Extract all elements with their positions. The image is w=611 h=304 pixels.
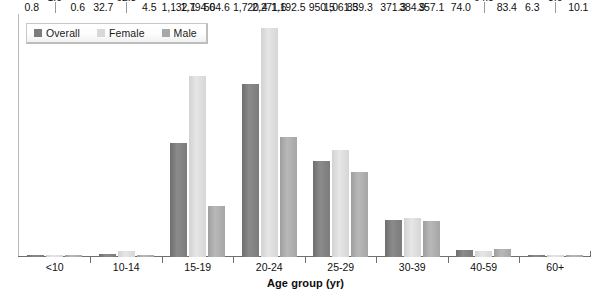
bar-female: 62.3	[118, 14, 135, 257]
bar-overall: 371.3	[385, 14, 402, 257]
bar-rect	[528, 255, 545, 257]
bar-male: 83.4	[494, 14, 511, 257]
bar-rect	[118, 251, 135, 257]
x-axis-title: Age group (yr)	[0, 277, 611, 289]
bar-male: 504.6	[208, 14, 225, 257]
bar-rect	[242, 84, 259, 257]
bar-value-label: 0.6	[71, 2, 85, 13]
bar-female: 384.9	[404, 14, 421, 257]
bar-rect	[170, 143, 187, 257]
bar-overall: 950.5	[313, 14, 330, 257]
plot-area: 0.81.00.632.762.34.51,132.11,794.6504.61…	[19, 14, 591, 257]
bar-female: 1,061.5	[332, 14, 349, 257]
bar-group: 950.51,061.5839.3	[305, 14, 377, 257]
bar-value-label: 74.0	[451, 2, 471, 13]
bar-group: 371.3384.9357.1	[377, 14, 449, 257]
figure-caption-clipped	[14, 293, 599, 304]
bar-male: 10.1	[566, 14, 583, 257]
bar-male: 839.3	[351, 14, 368, 257]
bar-rect	[46, 255, 63, 257]
bar-group: 6.33.010.1	[520, 14, 592, 257]
bar-value-label: 64.5	[474, 0, 494, 2]
bar-value-label: 6.3	[525, 2, 539, 13]
bar-overall: 1,720.4	[242, 14, 259, 257]
bar-value-label: 62.3	[116, 0, 136, 2]
bar-overall: 1,132.1	[170, 14, 187, 257]
bar-value-label: 0.8	[25, 2, 39, 13]
bar-female: 2,271.6	[261, 14, 278, 257]
bar-female: 1,794.6	[189, 14, 206, 257]
bar-male: 0.6	[65, 14, 82, 257]
bar-rect	[137, 255, 154, 257]
bar-rect	[494, 249, 511, 257]
x-axis-tick-labels: <1010-1415-1920-2425-2930-3940-5960+	[19, 262, 591, 273]
bar-overall: 0.8	[27, 14, 44, 257]
bar-rect	[423, 221, 440, 257]
bar-group: 74.064.583.4	[448, 14, 520, 257]
bar-rect	[280, 137, 297, 257]
bar-value-label: 1,192.5	[271, 2, 305, 13]
bar-rect	[566, 255, 583, 257]
bar-value-label: 4.5	[142, 2, 156, 13]
x-axis-tick-label: 25-29	[305, 262, 377, 273]
bar-rect	[475, 251, 492, 258]
bar-rect	[208, 206, 225, 257]
x-axis-tick-label: <10	[19, 262, 91, 273]
bar-rect	[404, 218, 421, 257]
x-axis-tick-label: 20-24	[234, 262, 306, 273]
bar-female: 64.5	[475, 14, 492, 257]
bar-value-label: 357.1	[418, 2, 444, 13]
bar-rect	[456, 250, 473, 258]
figure-grouped-bar-chart: Overall Female Male 0.81.00.632.762.34.5…	[0, 0, 611, 304]
bar-rect	[27, 255, 44, 257]
bar-rect	[99, 254, 116, 257]
bar-overall: 74.0	[456, 14, 473, 257]
bar-female: 3.0	[547, 14, 564, 257]
bar-value-label: 10.1	[568, 2, 588, 13]
x-axis-tick-label: 30-39	[377, 262, 449, 273]
bar-group: 32.762.34.5	[91, 14, 163, 257]
x-axis-tick-label: 15-19	[162, 262, 234, 273]
bar-value-label: 839.3	[347, 2, 373, 13]
bar-group: 0.81.00.6	[19, 14, 91, 257]
bar-rect	[351, 172, 368, 257]
bar-female: 1.0	[46, 14, 63, 257]
bar-rect	[313, 161, 330, 257]
bar-male: 357.1	[423, 14, 440, 257]
bar-male: 1,192.5	[280, 14, 297, 257]
bar-rect	[385, 220, 402, 257]
x-axis-tick-label: 40-59	[448, 262, 520, 273]
bar-value-label: 3.0	[548, 0, 562, 2]
bar-rect	[189, 76, 206, 257]
bar-overall: 6.3	[528, 14, 545, 257]
bar-male: 4.5	[137, 14, 154, 257]
bar-rect	[332, 150, 349, 257]
x-axis-tick-label: 60+	[520, 262, 592, 273]
bar-rect	[261, 28, 278, 257]
bar-value-label: 1.0	[48, 0, 62, 2]
bar-value-label: 32.7	[93, 2, 113, 13]
bar-value-label: 504.6	[204, 2, 230, 13]
bar-value-label: 83.4	[497, 2, 517, 13]
bar-rect	[547, 255, 564, 257]
bar-group: 1,720.42,271.61,192.5	[234, 14, 306, 257]
bar-rect	[65, 255, 82, 257]
bar-overall: 32.7	[99, 14, 116, 257]
bar-group: 1,132.11,794.6504.6	[162, 14, 234, 257]
x-axis-tick-label: 10-14	[91, 262, 163, 273]
